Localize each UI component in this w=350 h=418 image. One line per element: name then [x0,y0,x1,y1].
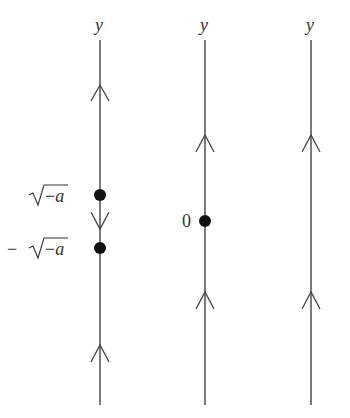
y-axis-label: y [198,15,208,35]
phase-line-a-zero: y 0 [182,15,214,405]
equilibrium-point-semistable [199,215,211,227]
equilibrium-point-unstable [94,189,106,201]
minus-sign: − [7,239,17,259]
equilibrium-point-stable [94,242,106,254]
phase-line-diagram: y −a − −a y 0 y [0,0,350,418]
radicand-text: −a [45,239,64,259]
equilibrium-label-sqrt-neg-a: −a [29,185,68,206]
y-axis-label: y [304,15,314,35]
radicand-text: −a [45,186,64,206]
phase-line-a-negative: y −a − −a [7,15,109,405]
equilibrium-label-zero: 0 [182,211,191,231]
phase-line-a-positive: y [302,15,320,405]
y-axis-label: y [93,15,103,35]
equilibrium-label-neg-sqrt-neg-a: − −a [7,238,68,259]
